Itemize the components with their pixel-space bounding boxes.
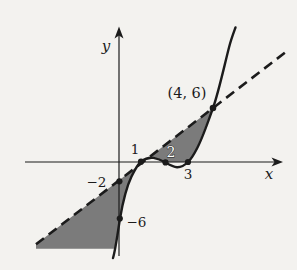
graph-svg: y x 1 2 3 −2 −6 (4, 6) <box>0 0 297 270</box>
figure-canvas: y x 1 2 3 −2 −6 (4, 6) <box>0 0 297 270</box>
point-dot-0-neg2 <box>116 178 122 184</box>
tick-label-3: 3 <box>184 166 193 182</box>
tick-label-neg6: −6 <box>127 214 147 230</box>
x-axis-label: x <box>265 165 274 183</box>
point-dot-4-6 <box>210 105 217 112</box>
point-dot-2-0 <box>162 159 168 165</box>
tick-label-2-outlined: 2 <box>167 144 176 160</box>
point-dot-0-neg6 <box>117 215 123 221</box>
point-annotation-4-6: (4, 6) <box>168 85 207 101</box>
tick-label-1: 1 <box>131 141 140 157</box>
y-axis-label: y <box>101 37 111 55</box>
point-dot-1-0 <box>138 159 144 165</box>
tick-label-neg2: −2 <box>87 174 107 190</box>
point-dot-3-0 <box>185 159 191 165</box>
